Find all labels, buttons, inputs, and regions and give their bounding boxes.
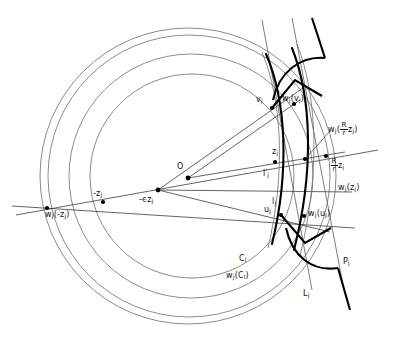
segment-Pj-top-right	[312, 18, 325, 58]
label-origin: O	[177, 163, 184, 171]
s1: w	[226, 271, 233, 280]
point-O	[186, 176, 191, 181]
label-minus-eps-zj-sub: j	[152, 197, 154, 204]
label-uj: uj	[264, 206, 271, 214]
n1: w	[308, 209, 315, 218]
label-zj: zj	[272, 148, 278, 156]
label-Cl: Cl	[239, 255, 247, 263]
label-vj-sub: j	[261, 97, 263, 104]
geometry-diagram-canvas: O -ϵzj -zj wj(-zj) vj wj(vj) uj wj(uj) z…	[0, 0, 395, 345]
ray-eps-to-wjzj	[158, 190, 352, 192]
w6: )	[354, 125, 357, 134]
l5: )	[66, 210, 69, 219]
point-minus-eps-zj	[156, 188, 161, 193]
label-wj-Rr-zj: wj( R r zj)	[328, 122, 358, 136]
u2: j	[348, 259, 350, 266]
label-minus-zj: -zj	[93, 190, 102, 198]
n5: )	[327, 209, 330, 218]
label-lj: lj	[272, 198, 276, 206]
point-vj	[270, 106, 274, 110]
diagram-svg	[0, 0, 395, 345]
label-uj-sub: j	[269, 207, 271, 214]
fraction-numerator: R	[331, 158, 338, 165]
label-minus-zj-text: -z	[93, 189, 101, 198]
s5: )	[246, 271, 249, 280]
r2: l	[245, 256, 247, 263]
label-wj-minus-zj: wj(-zj)	[45, 211, 70, 219]
label-Lj: Lj	[303, 290, 310, 298]
l1: w	[45, 210, 52, 219]
segment-Pj-bottom-right	[338, 268, 350, 310]
t2: j	[308, 291, 310, 298]
m3: (v	[291, 94, 299, 103]
fraction-denominator-2: r	[340, 129, 347, 137]
label-wj-vj: wj(vj)	[282, 95, 304, 103]
fraction-R-over-r: R r	[331, 158, 338, 172]
label-minus-zj-sub: j	[101, 191, 103, 198]
label-minus-eps-zj: -ϵzj	[139, 196, 153, 204]
n3: (u	[317, 209, 326, 218]
w1: w	[328, 125, 335, 134]
ray-eps-to-vj	[158, 88, 303, 190]
point-wj-uj	[302, 214, 306, 218]
arc-wj-lj	[292, 48, 308, 250]
label-wj-uj: wj(uj)	[308, 210, 330, 218]
q2: j	[274, 199, 276, 206]
fraction-R-over-r-2: R r	[340, 122, 347, 136]
w3: (	[337, 125, 340, 134]
point-minus-zj	[101, 200, 105, 204]
m5: )	[301, 94, 304, 103]
l3: (-z	[54, 210, 65, 219]
m1: w	[282, 94, 289, 103]
label-wj-Cl: wj(Cl)	[226, 272, 249, 280]
label-lj-prime: l'j	[263, 168, 269, 178]
fraction-denominator: r	[331, 165, 338, 173]
s3: (C	[235, 271, 244, 280]
label-wj-zj: wj(zj)	[338, 184, 360, 192]
point-uj	[279, 213, 283, 217]
x1: w	[338, 183, 345, 192]
arc-Pj-bottom	[286, 228, 338, 269]
point-zj	[273, 160, 277, 164]
label-minus-eps-zj-text: -ϵz	[139, 195, 152, 204]
v2: j	[342, 163, 344, 170]
label-zj-sub: j	[276, 149, 278, 156]
x5: )	[356, 183, 359, 192]
label-Rr-zj: R r zj	[330, 158, 344, 172]
label-vj: vj	[256, 96, 263, 104]
label-Pj: Pj	[343, 258, 350, 266]
fraction-numerator-2: R	[340, 122, 347, 129]
p3: j	[267, 171, 269, 178]
point-Rr-zj	[324, 154, 328, 158]
